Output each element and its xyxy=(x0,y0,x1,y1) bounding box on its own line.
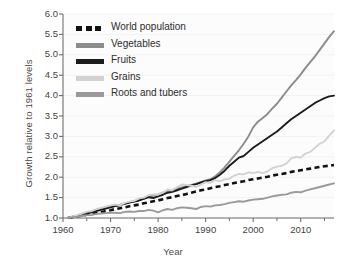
legend-label: Roots and tubers xyxy=(111,87,187,98)
legend-swatch-icon xyxy=(76,43,104,48)
legend-label: Grains xyxy=(111,71,140,82)
chart-figure: Growth relative to 1961 levels Year 1.01… xyxy=(0,0,346,266)
legend-label: Fruits xyxy=(111,54,136,65)
legend-label: Vegetables xyxy=(111,38,161,49)
legend-swatch-icon xyxy=(76,26,104,31)
x-axis-ticks: 196019701980199020002010 xyxy=(0,0,346,266)
legend-swatch-icon xyxy=(76,76,104,81)
legend-swatch-icon xyxy=(76,92,104,97)
x-tick-label: 1970 xyxy=(91,224,131,235)
x-tick-label: 2000 xyxy=(233,224,273,235)
x-tick-label: 2010 xyxy=(281,224,321,235)
legend-label: World population xyxy=(111,21,186,32)
x-tick-label: 1980 xyxy=(138,224,178,235)
legend-swatch-icon xyxy=(76,59,104,64)
x-tick-label: 1960 xyxy=(43,224,83,235)
x-tick-label: 1990 xyxy=(186,224,226,235)
